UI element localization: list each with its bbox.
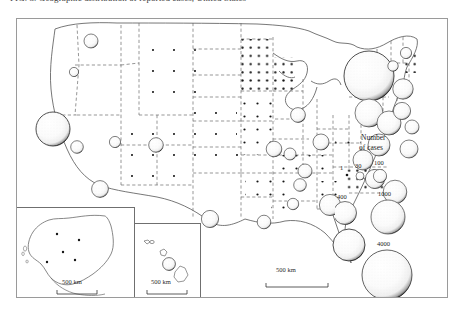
map-figure: 500 km 500 km 500 km: [16, 18, 448, 298]
map-symbol-ct: [393, 102, 410, 119]
hawaii-inset: 500 km: [134, 223, 201, 298]
map-symbol-az: [92, 181, 109, 198]
main-map-scale-bar: [266, 283, 328, 287]
legend-title-line1: Number: [361, 133, 386, 142]
hawaii-scale-bar: [147, 290, 187, 294]
legend-label-400: 400: [337, 193, 347, 200]
map-symbol-wa: [84, 34, 98, 48]
map-symbol-in: [284, 148, 296, 160]
map-symbol-ma: [393, 79, 413, 99]
map-symbol-tx: [201, 210, 218, 227]
legend-title-line2: of cases: [359, 143, 383, 152]
map-symbol-tn: [294, 179, 307, 192]
map-symbol-nh: [388, 61, 398, 71]
alaska-scale-label: 500 km: [62, 278, 82, 285]
map-symbol-ny: [344, 51, 394, 101]
figure-caption-strip: FIG. 3. Geographic distribution of repor…: [0, 0, 457, 13]
map-symbol-il: [266, 141, 282, 157]
alaska-inset: 500 km: [17, 207, 135, 298]
alaska-scale-bar: [57, 290, 97, 294]
figure-caption: FIG. 3. Geographic distribution of repor…: [10, 0, 246, 3]
map-symbol-al: [287, 198, 298, 209]
hawaii-symbol: [163, 258, 176, 271]
map-symbol-la: [257, 215, 271, 229]
map-symbol-ky: [298, 164, 312, 178]
map-symbol-oh: [313, 134, 329, 150]
legend-label-100: 100: [374, 159, 384, 166]
map-legend: Number of cases 1 30 100 400 1000 4000: [335, 127, 447, 297]
hawaii-scale-label: 500 km: [151, 278, 171, 285]
map-symbol-mi: [291, 108, 306, 123]
legend-unit-dot: [346, 174, 349, 177]
legend-label-1: 1: [340, 164, 343, 171]
map-symbol-ut: [109, 136, 120, 147]
map-symbol-ca: [36, 112, 70, 146]
legend-label-1000: 1000: [378, 190, 391, 197]
map-symbol-nv: [71, 141, 84, 154]
legend-label-30: 30: [355, 162, 362, 169]
main-map-scale-label: 500 km: [276, 266, 296, 273]
legend-symbols: [335, 127, 447, 297]
map-symbol-me: [400, 47, 411, 58]
map-symbol-co: [149, 138, 164, 153]
map-symbol-or: [69, 67, 78, 76]
legend-label-4000: 4000: [377, 240, 390, 247]
